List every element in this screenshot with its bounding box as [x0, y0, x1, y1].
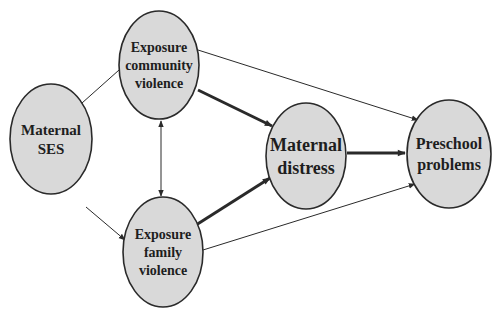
node-label-line: problems — [417, 156, 481, 174]
node-label-line: Maternal — [270, 135, 342, 155]
node-label-line: community — [125, 58, 193, 73]
node-preschool: Preschoolproblems — [407, 100, 491, 208]
node-distress: Maternaldistress — [266, 103, 346, 209]
node-label-line: distress — [277, 158, 335, 178]
node-label-line: violence — [139, 263, 187, 278]
node-ellipse — [407, 100, 491, 208]
node-label-line: Exposure — [135, 227, 192, 242]
path-diagram: MaternalSESExposurecommunityviolenceExpo… — [0, 0, 500, 314]
edge-family-to-distress — [196, 178, 270, 225]
node-label-line: family — [144, 245, 182, 260]
node-community: Exposurecommunityviolence — [119, 11, 199, 119]
node-ses: MaternalSES — [10, 84, 92, 194]
edge-ses-to-family — [86, 207, 125, 240]
node-label-line: SES — [38, 141, 65, 157]
node-ellipse — [266, 103, 346, 209]
edge-community-to-distress — [198, 90, 272, 126]
node-label-line: Exposure — [131, 40, 188, 55]
node-family: Exposurefamilyviolence — [123, 197, 203, 307]
node-label-line: Maternal — [21, 122, 81, 138]
nodes-layer: MaternalSESExposurecommunityviolenceExpo… — [10, 11, 491, 307]
node-ellipse — [10, 84, 92, 194]
node-label-line: Preschool — [416, 135, 483, 152]
node-label-line: violence — [135, 76, 183, 91]
